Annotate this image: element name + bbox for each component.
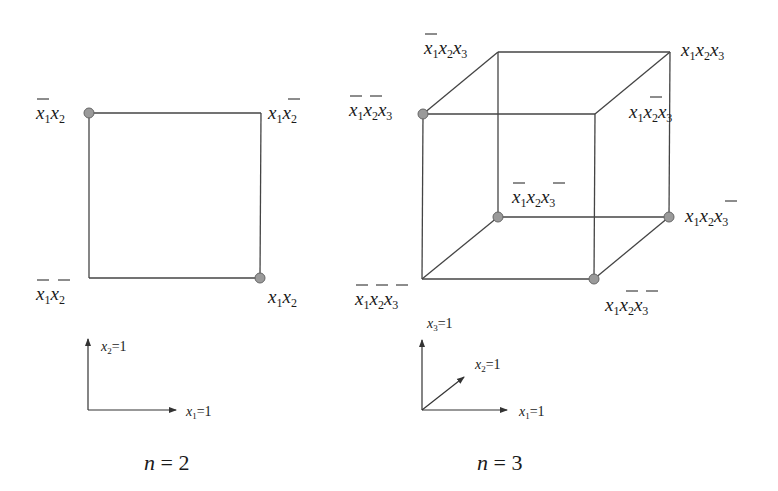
vertex-label-x1bar-x2-x3: x1x2x3 (423, 34, 467, 61)
vertex-label-x1-x2bar-x3: x1x2x3 (628, 97, 672, 125)
caption-n3: n = 3 (477, 450, 522, 475)
svg-text:x1x2: x1x2 (35, 283, 65, 307)
svg-text:x1x2: x1x2 (267, 102, 297, 126)
axis-x2-label: x2=1 (474, 357, 501, 374)
vertex-label-x1bar-x2-x3bar: x1x2x3 (511, 183, 565, 210)
vertex-dot-x1-x2bar-x3bar (589, 274, 599, 284)
vertex-label-x1-x2-x3: x1x2x3 (680, 39, 724, 63)
vertex-label-x1bar-x2bar-x3bar: x1x2x3 (354, 285, 408, 312)
svg-text:x1x2: x1x2 (267, 286, 297, 310)
axes-2d: x2=1 x1=1 (88, 339, 212, 421)
figure-svg: x1x2 x1x2 x1x2 x1x2 x2=1 x1=1 n = 2 (0, 0, 778, 491)
vertex-label-x1bar-x2bar-x3: x1x2x3 (348, 96, 392, 123)
vertex-label-x1-x2bar-x3bar: x1x2x3 (604, 291, 658, 318)
axes-3d: x3=1 x2=1 x1=1 (422, 316, 545, 421)
square-edges (89, 113, 261, 278)
axis-x2-arrow (422, 377, 464, 410)
cube-edges (422, 52, 670, 279)
vertex-label-x1-x2bar: x1x2 (267, 99, 300, 126)
axis-x1-label: x1=1 (185, 404, 212, 421)
svg-text:x1x2x3: x1x2x3 (684, 205, 728, 229)
vertex-label-x1-x2: x1x2 (267, 286, 297, 310)
panel-n2: x1x2 x1x2 x1x2 x1x2 x2=1 x1=1 n = 2 (35, 99, 300, 475)
svg-text:x1x2x3: x1x2x3 (628, 101, 672, 125)
svg-text:x1x2x3: x1x2x3 (354, 288, 398, 312)
axis-x1-label: x1=1 (518, 404, 545, 421)
svg-text:x1x2x3: x1x2x3 (604, 294, 648, 318)
vertex-dot-x1-x2-x3bar (664, 212, 674, 222)
vertex-dot-x1bar-x2 (84, 108, 94, 118)
axis-x3-label: x3=1 (426, 316, 453, 333)
panel-n3: x1x2x3 x1x2x3 x1x2x3 x1x2x3 x1x2x3 x1x2x… (348, 34, 737, 475)
vertex-label-x1bar-x2bar: x1x2 (35, 280, 70, 307)
vertex-dot-x1bar-x2bar-x3 (418, 109, 428, 119)
vertex-label-x1bar-x2: x1x2 (35, 99, 65, 126)
edge-right (260, 113, 261, 278)
vertex-dot-x1bar-x2-x3bar (493, 212, 503, 222)
svg-text:x1x2x3: x1x2x3 (511, 186, 555, 210)
svg-text:x1x2x3: x1x2x3 (423, 37, 467, 61)
vertex-dot-x1-x2 (255, 273, 265, 283)
svg-text:x1x2x3: x1x2x3 (348, 99, 392, 123)
boolean-hypercube-figure: x1x2 x1x2 x1x2 x1x2 x2=1 x1=1 n = 2 (0, 0, 778, 491)
svg-text:x1x2: x1x2 (35, 102, 65, 126)
caption-n2: n = 2 (144, 450, 189, 475)
vertex-label-x1-x2-x3bar: x1x2x3 (684, 201, 737, 229)
axis-x2-label: x2=1 (100, 339, 127, 356)
svg-text:x1x2x3: x1x2x3 (680, 39, 724, 63)
